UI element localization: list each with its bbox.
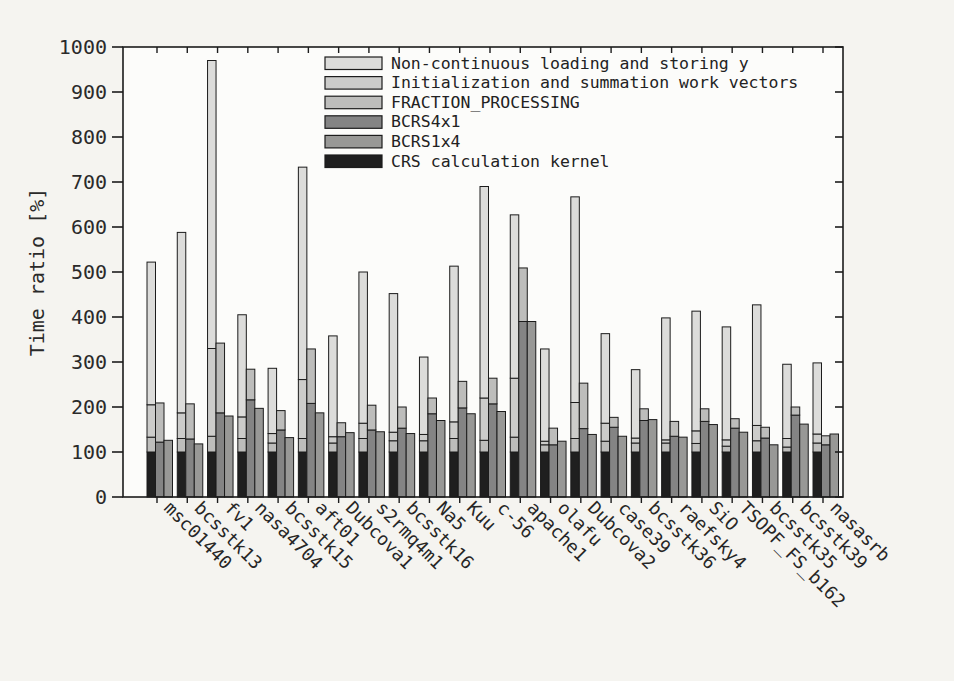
x-axis-category-label: Kuu bbox=[463, 497, 501, 535]
bar-segment-crs-kernel bbox=[752, 452, 761, 497]
bar-segment-bcrs1x4-kernel bbox=[800, 424, 809, 497]
bar-segment-bcrs4x1-kernel bbox=[519, 322, 528, 498]
y-axis-tick-label: 800 bbox=[71, 125, 107, 149]
bar-segment-bcrs1x4-kernel bbox=[618, 436, 627, 497]
bar-segment-bcrs4x1-kernel bbox=[489, 404, 498, 497]
bar-segment-bcrs1x4-kernel bbox=[225, 416, 234, 497]
legend-swatch bbox=[325, 135, 382, 148]
bar-segment-bcrs1x4-kernel bbox=[255, 408, 264, 497]
bar-segment-bcrs4x1-overhead bbox=[277, 411, 286, 430]
bar-segment-noncontinuous bbox=[298, 167, 307, 379]
bar-segment-fraction bbox=[329, 443, 338, 452]
bar-segment-bcrs4x1-overhead bbox=[579, 383, 588, 428]
bar-segment-crs-kernel bbox=[783, 452, 792, 497]
bar-segment-crs-kernel bbox=[450, 452, 459, 497]
legend-label: BCRS1x4 bbox=[391, 132, 461, 151]
y-axis-tick-label: 700 bbox=[71, 170, 107, 194]
bar-segment-noncontinuous bbox=[813, 363, 822, 434]
bar-segment-fraction bbox=[662, 443, 671, 452]
bar-segment-bcrs4x1-overhead bbox=[307, 349, 316, 403]
bar-segment-crs-kernel bbox=[389, 452, 398, 497]
bar-segment-noncontinuous bbox=[783, 364, 792, 438]
bar-segment-init-summation bbox=[692, 431, 701, 444]
bar-segment-noncontinuous bbox=[419, 357, 428, 434]
bar-segment-init-summation bbox=[601, 423, 610, 441]
bar-segment-bcrs4x1-kernel bbox=[549, 445, 558, 497]
bar-segment-fraction bbox=[389, 441, 398, 452]
bar-segment-bcrs4x1-overhead bbox=[186, 404, 195, 439]
bar-segment-fraction bbox=[631, 443, 640, 452]
bar-segment-crs-kernel bbox=[208, 452, 217, 497]
bar-segment-fraction bbox=[783, 447, 792, 452]
bar-chart: 01002003004005006007008009001000msc01440… bbox=[0, 0, 954, 681]
legend-label: BCRS4x1 bbox=[391, 112, 461, 131]
bar-segment-noncontinuous bbox=[389, 294, 398, 433]
bar-segment-init-summation bbox=[722, 440, 731, 446]
bar-segment-init-summation bbox=[752, 425, 761, 440]
bar-segment-fraction bbox=[480, 440, 489, 452]
bar-segment-init-summation bbox=[480, 398, 489, 440]
legend-swatch bbox=[325, 57, 382, 70]
bar-segment-noncontinuous bbox=[510, 215, 518, 378]
bar-segment-crs-kernel bbox=[177, 452, 186, 497]
bar-segment-noncontinuous bbox=[571, 197, 580, 403]
bar-segment-crs-kernel bbox=[359, 452, 368, 497]
bar-segment-crs-kernel bbox=[480, 452, 489, 497]
bar-segment-bcrs4x1-overhead bbox=[700, 409, 709, 422]
bar-segment-init-summation bbox=[510, 378, 518, 437]
bar-segment-bcrs4x1-overhead bbox=[246, 369, 255, 400]
bar-segment-bcrs4x1-overhead bbox=[458, 381, 467, 408]
bar-segment-crs-kernel bbox=[510, 452, 518, 497]
bar-segment-init-summation bbox=[268, 434, 277, 443]
legend-label: Initialization and summation work vector… bbox=[391, 73, 798, 92]
bar-segment-bcrs1x4-kernel bbox=[709, 425, 718, 497]
y-axis-tick-label: 200 bbox=[71, 395, 107, 419]
bar-segment-noncontinuous bbox=[268, 368, 277, 433]
bar-segment-fraction bbox=[813, 443, 822, 452]
bar-segment-bcrs4x1-overhead bbox=[791, 407, 800, 415]
bar-segment-crs-kernel bbox=[722, 452, 731, 497]
legend-swatch bbox=[325, 155, 382, 168]
bar-segment-bcrs4x1-overhead bbox=[761, 427, 770, 438]
bar-segment-fraction bbox=[722, 446, 731, 452]
bar-segment-fraction bbox=[510, 437, 518, 452]
bar-segment-init-summation bbox=[238, 417, 247, 439]
legend-swatch bbox=[325, 96, 382, 109]
bar-segment-crs-kernel bbox=[813, 452, 822, 497]
bar-segment-fraction bbox=[541, 445, 550, 452]
bar-segment-init-summation bbox=[177, 413, 186, 439]
bar-segment-bcrs4x1-kernel bbox=[216, 413, 225, 497]
bar-segment-bcrs1x4-kernel bbox=[346, 433, 355, 497]
bar-segment-noncontinuous bbox=[601, 334, 610, 424]
y-axis-tick-label: 500 bbox=[71, 260, 107, 284]
bar-segment-bcrs4x1-overhead bbox=[822, 436, 831, 445]
bar-segment-bcrs4x1-kernel bbox=[277, 430, 286, 497]
bar-segment-bcrs1x4-kernel bbox=[527, 322, 536, 498]
bar-segment-bcrs4x1-overhead bbox=[731, 419, 740, 428]
bar-segment-bcrs4x1-overhead bbox=[519, 268, 528, 322]
bar-segment-init-summation bbox=[359, 423, 368, 438]
bar-segment-crs-kernel bbox=[329, 452, 338, 497]
bar-segment-init-summation bbox=[389, 432, 398, 441]
bar-segment-fraction bbox=[208, 436, 217, 452]
bar-segment-noncontinuous bbox=[692, 311, 701, 431]
bar-segment-bcrs1x4-kernel bbox=[436, 421, 445, 498]
bar-segment-crs-kernel bbox=[238, 452, 247, 497]
bar-segment-bcrs4x1-overhead bbox=[156, 403, 165, 442]
bar-segment-crs-kernel bbox=[601, 452, 610, 497]
bar-segment-init-summation bbox=[541, 441, 550, 445]
bar-segment-bcrs4x1-kernel bbox=[791, 415, 800, 497]
bar-segment-bcrs4x1-kernel bbox=[367, 430, 376, 497]
bar-segment-init-summation bbox=[298, 380, 307, 439]
bar-segment-bcrs1x4-kernel bbox=[376, 432, 385, 497]
bar-segment-bcrs4x1-kernel bbox=[640, 421, 649, 498]
bar-segment-bcrs4x1-overhead bbox=[549, 428, 558, 445]
legend-swatch bbox=[325, 77, 382, 90]
bar-segment-noncontinuous bbox=[480, 187, 489, 399]
bar-segment-noncontinuous bbox=[722, 327, 731, 440]
bar-segment-bcrs4x1-kernel bbox=[246, 400, 255, 497]
bar-segment-bcrs4x1-overhead bbox=[367, 405, 376, 430]
bar-segment-fraction bbox=[359, 439, 368, 453]
bar-segment-crs-kernel bbox=[268, 452, 277, 497]
bar-segment-bcrs4x1-overhead bbox=[670, 421, 679, 436]
